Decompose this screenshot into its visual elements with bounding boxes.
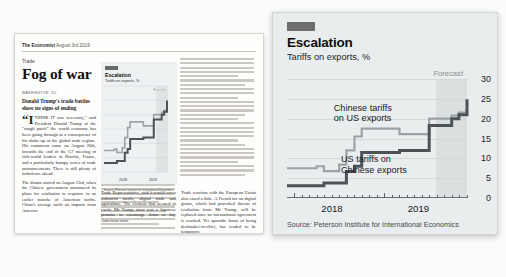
- inset-chart-subtitle: Tariffs on exports, %: [105, 79, 139, 83]
- x-tick: [347, 195, 348, 198]
- x-tick: [467, 195, 468, 198]
- x-tick: [332, 195, 333, 198]
- x-axis-ticks: [287, 192, 467, 198]
- article-body-left: “I THINK IT was necessary,” said Preside…: [22, 115, 96, 213]
- series-annotation-chinese: Chinese tariffs on US exports: [334, 103, 392, 124]
- x-tick: [309, 195, 310, 198]
- x-tick: [324, 195, 325, 198]
- masthead-date: August 3rd 2019: [56, 43, 90, 48]
- x-tick: [429, 195, 430, 198]
- x-tick: [444, 195, 445, 198]
- x-tick: [302, 195, 303, 198]
- x-tick: [459, 195, 460, 198]
- x-tick: [422, 195, 423, 198]
- inset-plot-area: [104, 86, 167, 172]
- inset-chart-title: Escalation: [105, 72, 131, 78]
- x-tick: [399, 195, 400, 198]
- y-tick-20: 20: [471, 114, 491, 124]
- chart-title: Escalation: [287, 35, 353, 50]
- chart-card-overlay: Escalation Tariffs on exports, % Forecas…: [272, 12, 498, 235]
- x-tick: [369, 195, 370, 198]
- article-column-right: [180, 58, 254, 178]
- chart-source: Source: Peterson Institute for Internati…: [287, 220, 459, 229]
- x-tick: [414, 195, 415, 198]
- x-tick: [407, 195, 408, 198]
- x-label-2019: 2019: [408, 203, 429, 214]
- article-paragraph-3: Trade Representative, said it would cove…: [101, 190, 176, 224]
- newspaper-page: The Economist August 3rd 2019 Trade Fog …: [14, 33, 264, 234]
- x-tick: [377, 195, 378, 198]
- y-tick-5: 5: [471, 173, 491, 183]
- inset-xlabel-2019: 2019: [149, 178, 157, 182]
- x-tick: [317, 195, 318, 198]
- newspaper-masthead: The Economist August 3rd 2019: [22, 40, 256, 52]
- article-paragraph-1: “I THINK IT was necessary,” said Preside…: [22, 115, 96, 177]
- x-axis-labels: 2018 2019: [287, 203, 467, 215]
- x-label-2018: 2018: [321, 203, 342, 214]
- x-tick: [354, 195, 355, 198]
- plot-area: Chinese tariffs on US exports US tariffs…: [287, 79, 467, 198]
- inset-accent-bar: [105, 66, 118, 70]
- article-column-left: Trade Fog of war WASHINGTON, DC Donald T…: [22, 58, 96, 216]
- greeked-text-right: [180, 58, 254, 176]
- y-tick-10: 10: [471, 153, 491, 163]
- forecast-label: Forecast: [433, 69, 463, 78]
- y-tick-0: 0: [471, 193, 491, 203]
- x-tick: [452, 195, 453, 198]
- screenshot-canvas: The Economist August 3rd 2019 Trade Fog …: [0, 0, 506, 277]
- article-body-right: [180, 58, 254, 176]
- economist-accent-bar: [287, 22, 315, 31]
- series-annotation-us: US tariffs on Chinese exports: [341, 154, 407, 175]
- y-tick-25: 25: [471, 94, 491, 104]
- article-standfirst: Donald Trump's trade battles show no sig…: [22, 98, 96, 111]
- masthead-brand: The Economist: [22, 43, 55, 48]
- inset-chart-source: Source: Peterson Institute for Internati…: [104, 188, 173, 192]
- article-dateline: WASHINGTON, DC: [22, 91, 96, 95]
- inset-xlabel-2018: 2018: [119, 178, 127, 182]
- article-body-under-chart: Trade Representative, said it would cove…: [101, 190, 256, 234]
- section-kicker: Trade: [22, 58, 96, 64]
- chart-subtitle: Tariffs on exports, %: [287, 52, 370, 62]
- article-headline: Fog of war: [22, 66, 96, 82]
- x-tick: [384, 193, 385, 199]
- y-tick-15: 15: [471, 134, 491, 144]
- inset-chart: Escalation Tariffs on exports, % Forecas…: [101, 62, 177, 184]
- x-tick: [294, 193, 295, 199]
- x-tick: [362, 195, 363, 198]
- article-paragraph-2: The drama started on August 23rd, when t…: [22, 180, 96, 214]
- y-tick-30: 30: [471, 74, 491, 84]
- x-tick: [339, 195, 340, 198]
- x-tick: [392, 195, 393, 198]
- article-paragraph-4: Trade tensions with the European Union a…: [181, 190, 256, 234]
- x-tick: [437, 195, 438, 198]
